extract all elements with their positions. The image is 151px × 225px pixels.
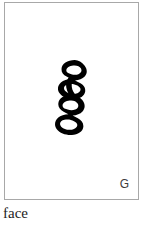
corner-letter-label: G [120,178,129,190]
caption-text: face [3,205,28,222]
section-sign-glyph-icon [55,59,91,135]
glyph-canvas [5,3,138,199]
glyph-specimen-card: G [4,2,139,200]
page-root: G face [0,0,151,225]
